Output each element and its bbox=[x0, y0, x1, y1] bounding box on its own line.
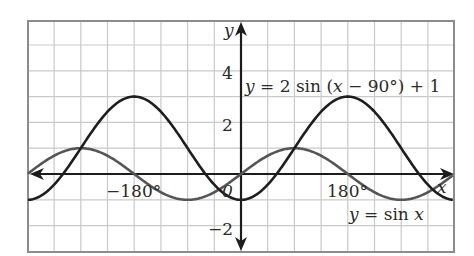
y-tick-neg2: −2 bbox=[208, 219, 233, 239]
curve2-equation-label: y = 2 sin (x − 90°) + 1 bbox=[244, 76, 440, 96]
trig-graph: y x 4 2 −2 −180° 0 180° y = 2 sin (x − 9… bbox=[0, 0, 474, 256]
curve1-equation-label: y = sin x bbox=[348, 204, 424, 224]
x-axis-label: x bbox=[437, 177, 447, 197]
x-tick-neg180: −180° bbox=[106, 181, 161, 201]
y-tick-4: 4 bbox=[222, 63, 233, 83]
y-tick-2: 2 bbox=[222, 115, 233, 135]
y-axis-label: y bbox=[223, 20, 234, 40]
x-tick-0: 0 bbox=[222, 181, 233, 201]
x-tick-180: 180° bbox=[327, 181, 368, 201]
